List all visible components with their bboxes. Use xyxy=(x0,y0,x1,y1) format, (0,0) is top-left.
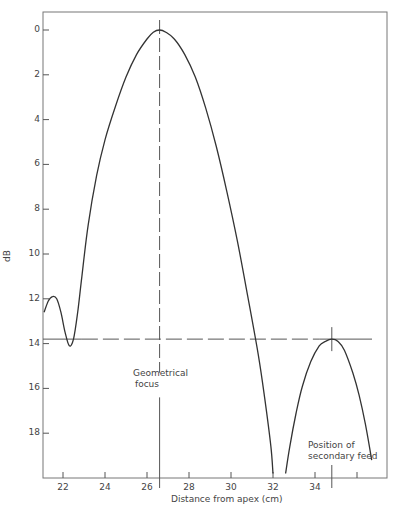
main-lobe-curve xyxy=(44,30,273,474)
x-tick-label: 32 xyxy=(258,482,288,493)
y-tick-label: 14 xyxy=(10,338,40,349)
y-tick-label: 0 xyxy=(10,24,40,35)
y-tick-label: 6 xyxy=(10,158,40,169)
y-tick-label: 16 xyxy=(10,382,40,393)
y-tick-label: 4 xyxy=(10,114,40,125)
annotation-geometrical-focus: Geometrical focus xyxy=(133,368,188,390)
y-tick-label: 18 xyxy=(10,427,40,438)
y-axis-label: dB xyxy=(2,250,13,262)
x-tick-label: 26 xyxy=(132,482,162,493)
annotation-line-1: Geometrical xyxy=(133,368,188,379)
plot-border xyxy=(43,12,387,478)
x-tick-label: 24 xyxy=(90,482,120,493)
annotation-line-1: Position of xyxy=(308,440,377,451)
y-tick-label: 10 xyxy=(10,248,40,259)
annotation-line-2: focus xyxy=(133,379,188,390)
data-curves xyxy=(44,30,372,474)
y-tick-label: 2 xyxy=(10,69,40,80)
annotation-line-2: secondary feed xyxy=(308,451,377,462)
x-tick-label: 28 xyxy=(174,482,204,493)
annotation-secondary-feed: Position of secondary feed xyxy=(308,440,377,462)
x-axis-label: Distance from apex (cm) xyxy=(171,494,283,505)
reference-lines xyxy=(43,20,372,488)
x-tick-label: 34 xyxy=(300,482,330,493)
plot-frame xyxy=(43,12,387,478)
y-tick-label: 12 xyxy=(10,293,40,304)
x-tick-label: 22 xyxy=(48,482,78,493)
axis-ticks xyxy=(43,30,357,478)
x-tick-label: 30 xyxy=(216,482,246,493)
y-tick-label: 8 xyxy=(10,203,40,214)
